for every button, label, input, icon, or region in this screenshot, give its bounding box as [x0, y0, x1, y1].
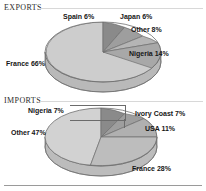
imports-label-france: France 28%	[132, 165, 171, 173]
imports-header-rule	[40, 101, 203, 102]
exports-label-other: Other 8%	[131, 26, 162, 34]
exports-header-rule	[40, 8, 203, 9]
bottom-divider-rule	[4, 185, 202, 186]
exports-label-france: France 66%	[6, 60, 45, 68]
nigeria-callout-box	[70, 105, 126, 121]
exports-label-nigeria: Nigeria 14%	[129, 50, 169, 58]
figure-root: EXPORTS	[0, 0, 206, 191]
imports-label-other: Other 47%	[11, 129, 46, 137]
exports-pie-chart	[0, 10, 206, 94]
imports-label-usa: USA 11%	[145, 125, 175, 133]
imports-label-ivory-coast: Ivory Coast 7%	[135, 110, 185, 118]
exports-label-japan: Japan 6%	[120, 13, 152, 21]
imports-label-nigeria: Nigeria 7%	[28, 107, 64, 115]
exports-pie-svg	[0, 10, 206, 94]
exports-label-spain: Spain 6%	[63, 13, 94, 21]
nigeria-callout-leader-line	[124, 119, 125, 128]
